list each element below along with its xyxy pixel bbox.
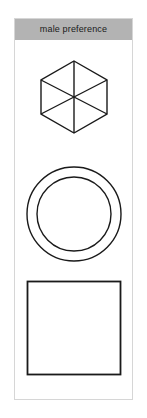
shape-slot-square bbox=[15, 276, 132, 380]
shape-slot-ring bbox=[15, 164, 132, 264]
male-preference-panel: male preference bbox=[14, 18, 133, 400]
hexagon-divided-icon bbox=[39, 59, 109, 135]
panel-header-label: male preference bbox=[40, 25, 107, 34]
panel-header: male preference bbox=[15, 19, 132, 40]
ring-inner-circle bbox=[37, 177, 111, 251]
shape-list bbox=[15, 40, 132, 399]
concentric-ring-icon bbox=[25, 165, 123, 263]
square-border bbox=[27, 282, 120, 375]
square-outline-icon bbox=[26, 280, 122, 376]
shape-slot-hexagon bbox=[15, 57, 132, 137]
ring-outer-circle bbox=[27, 167, 121, 261]
